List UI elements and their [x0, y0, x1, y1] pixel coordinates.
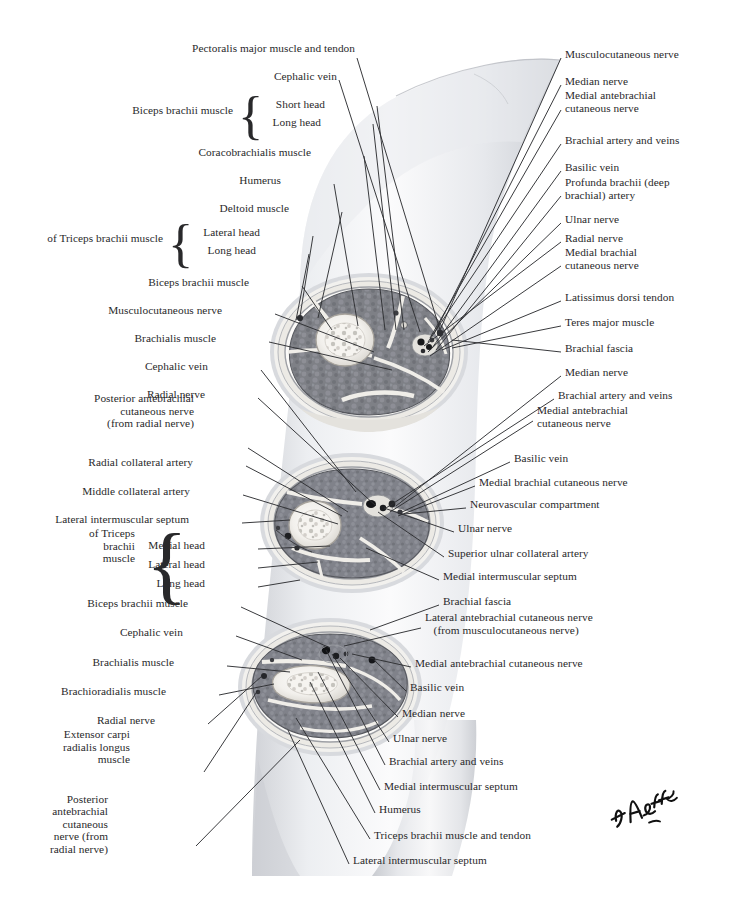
brace-triceps-heads-lower: { — [146, 536, 188, 592]
label-long-head-2: Long head — [208, 244, 256, 257]
mid-arm-cross-section — [260, 453, 444, 593]
label-medial-antebrachial-cutaneous-nerve-2: Medial antebrachial cutaneous nerve — [537, 404, 628, 429]
label-medial-antebrachial-cutaneous-nerve-1: Medial antebrachial cutaneous nerve — [565, 89, 656, 114]
label-ulnar-nerve-1: Ulnar nerve — [565, 213, 619, 226]
label-radial-nerve-left-2: Radial nerve — [97, 714, 155, 727]
label-brachial-artery-and-veins-2: Brachial artery and veins — [558, 389, 672, 402]
label-medial-antebrachial-cutaneous-nerve-3: Medial antebrachial cutaneous nerve — [415, 657, 583, 670]
label-pectoralis-major-muscle-and-tendon: Pectoralis major muscle and tendon — [192, 42, 355, 55]
label-basilic-vein-1: Basilic vein — [565, 161, 619, 174]
label-radial-nerve-right-1: Radial nerve — [565, 232, 623, 245]
label-lateral-antebrachial-cutaneous-nerve: Lateral antebrachial cutaneous nerve (fr… — [425, 611, 593, 636]
label-cephalic-vein-1: Cephalic vein — [274, 70, 337, 83]
label-medial-brachial-cutaneous-nerve-2: Medial brachial cutaneous nerve — [479, 476, 628, 489]
label-triceps-brachii-muscle-and-tendon: Triceps brachii muscle and tendon — [374, 829, 531, 842]
label-short-head: Short head — [276, 98, 325, 111]
label-long-head-1: Long head — [273, 116, 321, 129]
label-deltoid-muscle: Deltoid muscle — [220, 202, 289, 215]
netter-signature — [608, 789, 680, 830]
label-median-nerve-1: Median nerve — [565, 75, 628, 88]
label-brachial-artery-and-veins-3: Brachial artery and veins — [389, 755, 503, 768]
arm-silhouette — [252, 59, 560, 876]
neurovascular-bundle-upper — [393, 310, 443, 356]
label-basilic-vein-2: Basilic vein — [514, 452, 568, 465]
label-medial-brachial-cutaneous-nerve-1: Medial brachial cutaneous nerve — [565, 246, 639, 271]
label-ulnar-nerve-2: Ulnar nerve — [458, 522, 512, 535]
label-brachial-fascia-1: Brachial fascia — [565, 342, 633, 355]
label-extensor-carpi-radialis-longus-muscle: Extensor carpi radialis longus muscle — [63, 728, 130, 766]
label-superior-ulnar-collateral-artery: Superior ulnar collateral artery — [448, 547, 589, 560]
label-biceps-brachii-muscle-2: Biceps brachii muscle — [148, 276, 249, 289]
label-median-nerve-3: Median nerve — [402, 707, 465, 720]
label-musculocutaneous-nerve-left: Musculocutaneous nerve — [108, 304, 222, 317]
label-radial-collateral-artery: Radial collateral artery — [88, 456, 193, 469]
label-biceps-brachii-muscle-1: Biceps brachii muscle — [132, 104, 233, 117]
label-ulnar-nerve-3: Ulnar nerve — [393, 732, 447, 745]
label-coracobrachialis-muscle: Coracobrachialis muscle — [198, 146, 311, 159]
label-musculocutaneous-nerve-right: Musculocutaneous nerve — [565, 48, 679, 61]
label-humerus-1: Humerus — [239, 174, 281, 187]
label-cephalic-vein-3: Cephalic vein — [120, 626, 183, 639]
brace-triceps-heads-upper: { — [168, 226, 193, 260]
brace-biceps-heads: { — [238, 98, 263, 132]
label-posterior-antebrachial-cutaneous-nerve-2: Posterior antebrachial cutaneous nerve (… — [50, 793, 108, 856]
anatomy-plate: Pectoralis major muscle and tendonCephal… — [0, 0, 729, 917]
label-cephalic-vein-2: Cephalic vein — [145, 360, 208, 373]
upper-arm-cross-section — [270, 273, 468, 432]
label-latissimus-dorsi-tendon: Latissimus dorsi tendon — [565, 291, 674, 304]
neurovascular-bundle-distal — [319, 645, 375, 663]
label-posterior-antebrachial-cutaneous-nerve-1: Posterior antebrachial cutaneous nerve (… — [94, 392, 194, 430]
label-lateral-head-1: Lateral head — [203, 226, 260, 239]
label-basilic-vein-3: Basilic vein — [410, 681, 464, 694]
label-teres-major-muscle: Teres major muscle — [565, 316, 654, 329]
label-of-triceps-brachii-muscle: of Triceps brachii muscle — [47, 232, 163, 245]
label-brachialis-muscle-2: Brachialis muscle — [93, 656, 174, 669]
label-brachial-fascia-2: Brachial fascia — [443, 595, 511, 608]
label-median-nerve-2: Median nerve — [565, 366, 628, 379]
label-neurovascular-compartment: Neurovascular compartment — [470, 498, 600, 511]
label-lateral-intermuscular-septum-2: Lateral intermuscular septum — [353, 854, 487, 867]
label-brachioradialis-muscle: Brachioradialis muscle — [61, 685, 166, 698]
leader-lines-left — [196, 58, 440, 846]
label-brachialis-muscle-1: Brachialis muscle — [135, 332, 216, 345]
label-humerus-2: Humerus — [379, 803, 421, 816]
neurovascular-bundle-mid — [363, 495, 403, 517]
label-medial-intermuscular-septum-1: Medial intermuscular septum — [443, 570, 577, 583]
label-brachial-artery-and-veins-1: Brachial artery and veins — [565, 134, 679, 147]
label-medial-intermuscular-septum-2: Medial intermuscular septum — [384, 780, 518, 793]
label-profunda-brachii-artery: Profunda brachii (deep brachial) artery — [565, 176, 670, 201]
label-middle-collateral-artery: Middle collateral artery — [82, 485, 190, 498]
label-of-triceps-brachii-muscle-2: of Triceps brachii muscle — [89, 527, 135, 565]
